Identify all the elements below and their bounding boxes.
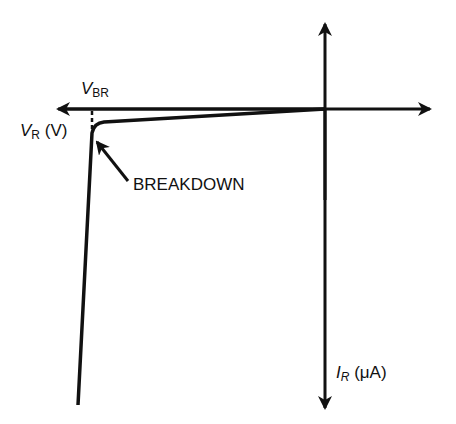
vr-label-sub: R: [31, 128, 40, 142]
ir-axis-label: IR (μA): [336, 363, 387, 384]
vr-axis-label: VR (V): [20, 121, 67, 142]
vr-label-main: V: [20, 121, 31, 140]
vbr-label-sub: BR: [92, 86, 109, 100]
characteristic-curve: [78, 109, 325, 405]
vbr-label: VBR: [81, 79, 109, 100]
breakdown-label: BREAKDOWN: [133, 175, 244, 195]
breakdown-pointer-arrow: [97, 142, 128, 181]
breakdown-text: BREAKDOWN: [133, 175, 244, 194]
vbr-label-main: V: [81, 79, 92, 98]
diagram-canvas: [0, 0, 456, 424]
vr-label-unit: (V): [40, 121, 67, 140]
ir-label-unit: (μA): [349, 363, 386, 382]
